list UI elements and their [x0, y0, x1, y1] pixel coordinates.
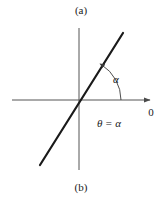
x-axis-end-label: 0 [148, 106, 154, 118]
figure-container: (a) α θ = α 0 (b) [0, 0, 162, 201]
figure-label-b: (b) [0, 181, 162, 193]
data-line [40, 33, 123, 165]
relation-label-theta-equals-alpha: θ = α [97, 117, 121, 129]
coordinate-plot: α θ = α 0 [0, 0, 162, 201]
angle-label-alpha: α [113, 73, 119, 85]
